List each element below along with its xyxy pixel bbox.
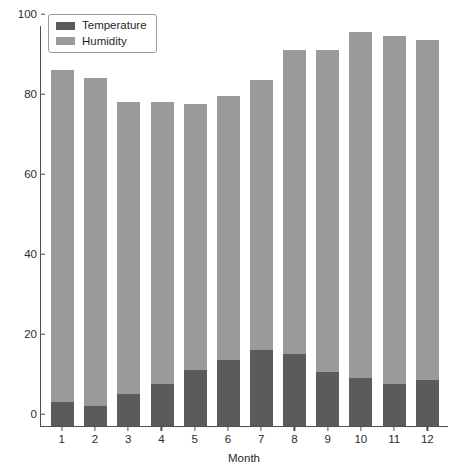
x-axis-tick-label: 7 [250, 434, 273, 446]
y-axis-tick: 80 [24, 89, 41, 101]
x-axis-tick-mark [128, 427, 129, 431]
bar-segment-humidity[interactable] [316, 50, 339, 372]
y-axis-tick: 0 [31, 409, 41, 421]
bar-stack[interactable] [250, 26, 273, 426]
x-axis-tick-mark [261, 427, 262, 431]
x-axis-tick: 6 [216, 427, 239, 449]
y-axis-tick: 20 [24, 329, 41, 341]
y-axis-tick-label: 60 [24, 169, 41, 181]
bar-stack[interactable] [151, 26, 174, 426]
y-axis-tick-mark [41, 14, 45, 15]
x-axis-tick-label: 9 [316, 434, 339, 446]
legend-item[interactable]: Humidity [56, 36, 147, 48]
x-axis-tick-mark [294, 427, 295, 431]
bar-segment-humidity[interactable] [283, 50, 306, 354]
x-axis-tick-mark [327, 427, 328, 431]
bar-segment-humidity[interactable] [84, 78, 107, 406]
bar-segment-temperature[interactable] [184, 370, 207, 426]
x-axis-tick-label: 4 [150, 434, 173, 446]
x-axis-title: Month [40, 452, 448, 464]
y-axis-tick-label: 80 [24, 89, 41, 101]
x-axis-tick: 9 [316, 427, 339, 449]
bar-segment-humidity[interactable] [349, 32, 372, 378]
bar-segment-temperature[interactable] [316, 372, 339, 426]
bar-stack[interactable] [416, 26, 439, 426]
bar-segment-humidity[interactable] [117, 102, 140, 394]
bar-segment-temperature[interactable] [117, 394, 140, 426]
x-axis-tick: 12 [416, 427, 439, 449]
legend-swatch-icon [56, 22, 75, 30]
x-axis-tick-label: 5 [183, 434, 206, 446]
x-axis-tick: 2 [83, 427, 106, 449]
bar-segment-temperature[interactable] [250, 350, 273, 426]
x-axis-tick-label: 10 [349, 434, 372, 446]
bar-stack[interactable] [117, 26, 140, 426]
bar-segment-temperature[interactable] [84, 406, 107, 426]
bar-segment-humidity[interactable] [416, 40, 439, 380]
x-axis-tick-mark [94, 427, 95, 431]
x-axis-tick-label: 8 [283, 434, 306, 446]
bar-segment-temperature[interactable] [217, 360, 240, 426]
x-axis-tick-label: 11 [383, 434, 406, 446]
x-axis-tick-mark [161, 427, 162, 431]
x-axis: 123456789101112 [40, 427, 448, 449]
y-axis-tick-label: 100 [18, 9, 41, 21]
x-axis-tick-mark [61, 427, 62, 431]
x-axis-tick-label: 2 [83, 434, 106, 446]
x-axis-tick-label: 6 [216, 434, 239, 446]
bar-segment-temperature[interactable] [349, 378, 372, 426]
bar-segment-temperature[interactable] [151, 384, 174, 426]
x-axis-tick-label: 12 [416, 434, 439, 446]
bar-segment-temperature[interactable] [51, 402, 74, 426]
bar-segment-humidity[interactable] [383, 36, 406, 384]
bar-segment-humidity[interactable] [151, 102, 174, 384]
bar-segment-humidity[interactable] [217, 96, 240, 360]
x-axis-tick: 7 [250, 427, 273, 449]
bar-chart: 100806040200 123456789101112 Month Tempe… [0, 0, 456, 475]
y-axis-tick: 40 [24, 249, 41, 261]
bar-stack[interactable] [316, 26, 339, 426]
legend-item-label: Temperature [82, 20, 147, 32]
x-axis-tick: 5 [183, 427, 206, 449]
legend-swatch-icon [56, 37, 75, 45]
bar-segment-temperature[interactable] [283, 354, 306, 426]
y-axis-tick-label: 40 [24, 249, 41, 261]
x-axis-tick-mark [394, 427, 395, 431]
legend-item-label: Humidity [82, 36, 127, 48]
x-axis-tick-mark [427, 427, 428, 431]
bar-segment-temperature[interactable] [416, 380, 439, 426]
x-axis-tick-mark [227, 427, 228, 431]
bar-series-container [41, 26, 448, 426]
x-axis-tick-label: 1 [50, 434, 73, 446]
y-axis-tick-label: 0 [31, 409, 41, 421]
legend: TemperatureHumidity [48, 14, 157, 53]
bar-stack[interactable] [217, 26, 240, 426]
x-axis-tick-mark [194, 427, 195, 431]
y-axis-tick: 60 [24, 169, 41, 181]
x-axis-tick: 11 [383, 427, 406, 449]
bar-segment-humidity[interactable] [51, 70, 74, 402]
bar-segment-humidity[interactable] [250, 80, 273, 350]
plot-area: 100806040200 [40, 26, 448, 427]
legend-item[interactable]: Temperature [56, 20, 147, 32]
x-axis-tick-label: 3 [117, 434, 140, 446]
bar-stack[interactable] [184, 26, 207, 426]
x-axis-tick: 8 [283, 427, 306, 449]
x-axis-tick-mark [360, 427, 361, 431]
bar-stack[interactable] [51, 26, 74, 426]
bar-segment-humidity[interactable] [184, 104, 207, 370]
x-axis-tick: 1 [50, 427, 73, 449]
x-axis-tick: 3 [117, 427, 140, 449]
bar-stack[interactable] [283, 26, 306, 426]
bar-stack[interactable] [383, 26, 406, 426]
y-axis-tick-label: 20 [24, 329, 41, 341]
bar-stack[interactable] [84, 26, 107, 426]
y-axis-tick: 100 [18, 9, 41, 21]
x-axis-tick: 4 [150, 427, 173, 449]
bar-stack[interactable] [349, 26, 372, 426]
x-axis-tick: 10 [349, 427, 372, 449]
bar-segment-temperature[interactable] [383, 384, 406, 426]
